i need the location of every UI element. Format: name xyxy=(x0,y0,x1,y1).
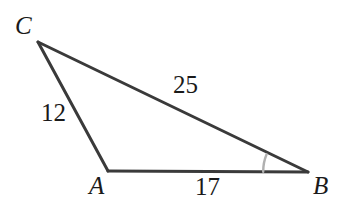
side-length-label-ab: 17 xyxy=(195,174,220,199)
side-length-label-ca: 12 xyxy=(41,100,66,125)
side-length-label-cb: 25 xyxy=(173,72,198,97)
vertex-label-a: A xyxy=(89,173,104,198)
angle-arc-B xyxy=(263,154,266,171)
side-CB-line xyxy=(38,42,308,172)
side-AB-line xyxy=(108,171,308,172)
vertex-label-b: B xyxy=(313,173,328,198)
triangle-diagram: C A B 12 25 17 xyxy=(0,0,341,213)
vertex-label-c: C xyxy=(15,13,32,38)
